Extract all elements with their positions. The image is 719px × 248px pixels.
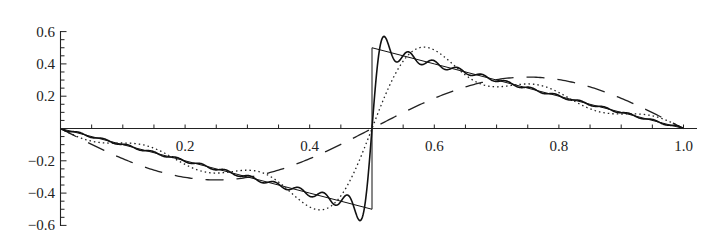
y-tick-label: −0.2	[28, 153, 55, 169]
x-tick-label: 0.6	[425, 138, 444, 154]
y-tick-labels: 0.6 0.4 0.2 −0.2 −0.4 −0.6	[28, 24, 56, 234]
fourier-sawtooth-chart: 0.2 0.4 0.6 0.8 1.0 0.6 0.4 0.2 −0.2 −0.…	[0, 0, 719, 248]
x-ticks	[92, 125, 684, 129]
axes: 0.2 0.4 0.6 0.8 1.0 0.6 0.4 0.2 −0.2 −0.…	[28, 24, 697, 234]
x-tick-label: 0.4	[300, 138, 319, 154]
x-tick-label: 0.2	[176, 138, 195, 154]
y-tick-label: 0.6	[36, 24, 55, 40]
y-tick-label: 0.4	[36, 56, 55, 72]
x-tick-label: 1.0	[674, 138, 693, 154]
x-tick-labels: 0.2 0.4 0.6 0.8 1.0	[176, 138, 693, 154]
x-tick-label: 0.8	[550, 138, 569, 154]
y-tick-label: −0.4	[28, 185, 56, 201]
y-tick-label: −0.6	[28, 217, 56, 233]
y-tick-label: 0.2	[36, 88, 55, 104]
